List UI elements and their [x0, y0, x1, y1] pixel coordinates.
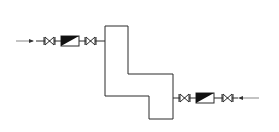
left-inlet-train: [16, 36, 105, 46]
gate-valve-icon: [223, 94, 232, 102]
process-diagram: [0, 0, 279, 132]
gate-valve-icon: [180, 94, 189, 102]
left-flow-meter[interactable]: [61, 36, 79, 46]
gate-valve-icon: [86, 37, 95, 45]
stepped-vessel: [105, 26, 173, 119]
right-feed-arrow-icon: [238, 96, 243, 100]
left-valve-2[interactable]: [85, 37, 96, 45]
right-valve-1[interactable]: [179, 94, 190, 102]
left-valve-1[interactable]: [44, 37, 55, 45]
left-feed-arrow-icon: [29, 39, 34, 43]
gate-valve-icon: [45, 37, 54, 45]
right-flow-meter[interactable]: [196, 93, 214, 103]
right-inlet-train: [173, 93, 259, 103]
right-valve-2[interactable]: [222, 94, 233, 102]
